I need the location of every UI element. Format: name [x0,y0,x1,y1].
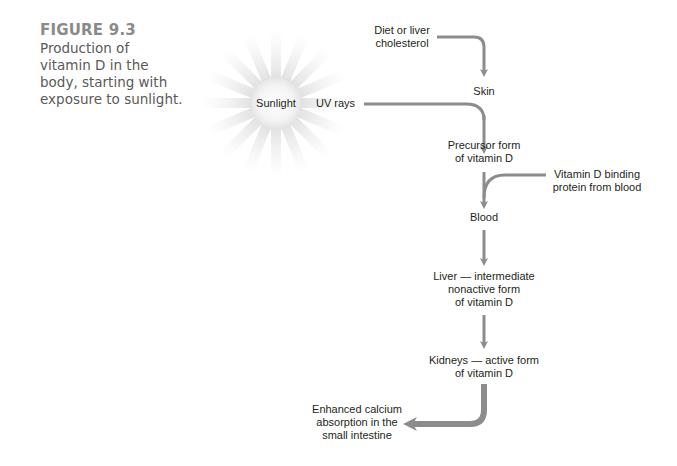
sun-label: Sunlight [249,97,303,110]
node-text: small intestine [307,429,407,442]
node-text: of vitamin D [439,152,529,165]
arrow-binding-to-blood [484,175,546,198]
arrow-kidneys-to-outcome [412,384,484,424]
node-text: nonactive form [424,283,544,296]
node-skin: Skin [464,85,504,98]
node-diet: Diet or liver cholesterol [367,24,437,50]
arrow-diet-to-skin [437,37,484,73]
node-uv-rays: UV rays [316,97,355,110]
node-text: Enhanced calcium [307,403,407,416]
node-text: Vitamin D binding [547,168,647,181]
node-text: Precursor form [439,139,529,152]
node-outcome: Enhanced calcium absorption in the small… [307,403,407,442]
node-text: Liver — intermediate [424,270,544,283]
flow-diagram [0,0,677,466]
node-text: protein from blood [547,181,647,194]
node-text: cholesterol [367,37,437,50]
node-text: of vitamin D [424,296,544,309]
node-text: absorption in the [307,416,407,429]
node-kidneys: Kidneys — active form of vitamin D [419,354,549,380]
node-text: of vitamin D [419,367,549,380]
node-liver: Liver — intermediate nonactive form of v… [424,270,544,309]
arrow-uv-to-precursor [364,104,484,120]
node-precursor: Precursor form of vitamin D [439,139,529,165]
node-blood: Blood [459,211,509,224]
node-text: Kidneys — active form [419,354,549,367]
node-text: Diet or liver [367,24,437,37]
node-binding-protein: Vitamin D binding protein from blood [547,168,647,194]
